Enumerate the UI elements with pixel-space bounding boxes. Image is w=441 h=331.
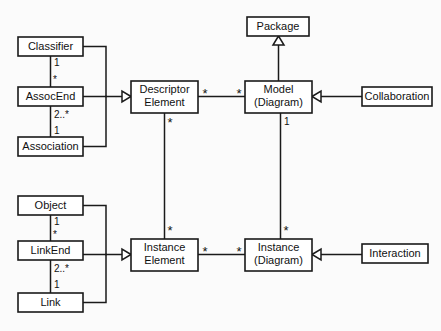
edge-object-bus: [83, 206, 106, 255]
star-instance-diagram-up: *: [283, 223, 288, 238]
star-instance-elem-right: *: [202, 244, 207, 259]
node-descriptor-element-label: Descriptor: [139, 83, 189, 95]
node-linkend-label: LinkEnd: [31, 244, 71, 256]
node-interaction-label: Interaction: [369, 247, 420, 259]
uml-class-diagram: Classifier AssocEnd Association Descript…: [0, 0, 441, 331]
edge-association-bus: [83, 97, 106, 147]
multiplicity-classifier-assocend-lower: *: [53, 74, 57, 85]
node-association[interactable]: Association: [18, 137, 83, 156]
generalization-arrow-model: [312, 91, 321, 102]
multiplicity-classifier-assocend-upper: 1: [54, 57, 60, 68]
generalization-arrow-instance-element: [122, 249, 131, 260]
node-assocend-label: AssocEnd: [26, 90, 76, 102]
star-instance-element-up: *: [167, 223, 172, 238]
star-instance-diag-left: *: [236, 244, 241, 259]
node-instance-element-label: Instance: [144, 241, 186, 253]
node-link[interactable]: Link: [18, 293, 83, 312]
node-assocend[interactable]: AssocEnd: [18, 87, 83, 106]
node-instance-element-label2: Element: [144, 254, 184, 266]
node-classifier[interactable]: Classifier: [18, 37, 83, 56]
node-descriptor-element-label2: Element: [144, 96, 184, 108]
node-instance-diagram[interactable]: Instance (Diagram): [245, 239, 312, 271]
edge-link-bus: [83, 255, 106, 303]
node-instance-diagram-label2: (Diagram): [254, 254, 303, 266]
multiplicity-linkend-link-lower: 1: [54, 279, 60, 290]
node-instance-diagram-label: Instance: [258, 241, 300, 253]
star-descriptor-down: *: [167, 115, 172, 130]
star-descriptor-model-left: *: [202, 86, 207, 101]
node-object[interactable]: Object: [18, 196, 83, 215]
multiplicity-object-linkend-upper: 1: [54, 216, 60, 227]
node-collaboration-label: Collaboration: [365, 90, 430, 102]
diagram-canvas: Classifier AssocEnd Association Descript…: [0, 0, 441, 331]
generalization-arrow-instance-diagram: [312, 249, 321, 260]
edge-layer: [51, 36, 363, 303]
node-package[interactable]: Package: [247, 17, 309, 36]
node-model-diagram-label2: (Diagram): [254, 96, 303, 108]
multiplicity-model-instance-top: 1: [284, 116, 290, 127]
node-layer: Classifier AssocEnd Association Descript…: [18, 17, 432, 312]
node-object-label: Object: [35, 199, 67, 211]
edge-classifier-bus: [83, 47, 106, 97]
node-descriptor-element[interactable]: Descriptor Element: [131, 81, 198, 113]
generalization-arrow-descriptor: [122, 91, 131, 102]
node-model-diagram[interactable]: Model (Diagram): [245, 81, 312, 113]
node-package-label: Package: [257, 20, 300, 32]
multiplicity-linkend-link-upper: 2..*: [54, 263, 69, 274]
node-classifier-label: Classifier: [28, 40, 74, 52]
multiplicity-assocend-association-upper: 2..*: [54, 109, 69, 120]
node-linkend[interactable]: LinkEnd: [18, 241, 83, 260]
node-link-label: Link: [40, 296, 61, 308]
multiplicity-object-linkend-lower: *: [53, 229, 57, 240]
node-instance-element[interactable]: Instance Element: [131, 239, 198, 271]
star-descriptor-model-right: *: [236, 86, 241, 101]
node-collaboration[interactable]: Collaboration: [362, 87, 432, 106]
multiplicity-assocend-association-lower: 1: [54, 125, 60, 136]
node-association-label: Association: [22, 140, 78, 152]
node-interaction[interactable]: Interaction: [362, 244, 428, 263]
node-model-diagram-label: Model: [264, 83, 294, 95]
generalization-arrow-package: [273, 36, 284, 45]
